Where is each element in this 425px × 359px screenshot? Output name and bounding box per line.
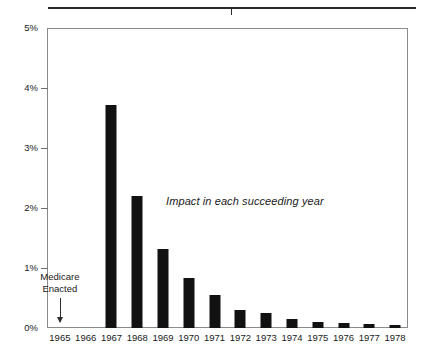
bar-chart-figure: 0%1%2%3%4%5% 196519661967196819691970197… xyxy=(0,0,425,359)
bar-1974 xyxy=(286,319,297,328)
bar-1975 xyxy=(312,322,323,328)
x-axis-tick-label: 1966 xyxy=(75,332,96,343)
annotation-medicare-enacted: Medicare Enacted xyxy=(29,271,91,294)
bar-1969 xyxy=(158,249,169,328)
bar-1971 xyxy=(209,295,220,328)
bar-1967 xyxy=(106,105,117,328)
x-axis-tick-label: 1973 xyxy=(256,332,277,343)
annotation-medicare-line-2: Enacted xyxy=(29,283,91,295)
medicare-down-arrow-icon xyxy=(60,298,61,322)
y-axis-tick-label: 2% xyxy=(24,203,38,213)
x-axis-tick-label: 1967 xyxy=(101,332,122,343)
annotation-medicare-line-1: Medicare xyxy=(29,271,91,283)
bars-layer xyxy=(47,28,408,328)
x-axis-tick-label: 1977 xyxy=(359,332,380,343)
x-axis-tick-label: 1969 xyxy=(152,332,173,343)
x-axis-tick-label: 1974 xyxy=(281,332,302,343)
bar-1978 xyxy=(390,325,401,328)
bar-1972 xyxy=(235,310,246,328)
bar-1970 xyxy=(183,278,194,328)
y-axis-tick-label: 0% xyxy=(24,323,38,333)
bar-1968 xyxy=(132,196,143,328)
y-axis: 0%1%2%3%4%5% xyxy=(0,0,47,359)
bar-1976 xyxy=(338,323,349,328)
x-axis-tick-label: 1968 xyxy=(127,332,148,343)
x-axis-tick-label: 1965 xyxy=(49,332,70,343)
x-axis-tick-label: 1976 xyxy=(333,332,354,343)
arrow-head-icon xyxy=(57,317,63,323)
x-axis-tick-label: 1971 xyxy=(204,332,225,343)
x-axis-tick-label: 1972 xyxy=(230,332,251,343)
x-axis-tick-label: 1978 xyxy=(385,332,406,343)
x-axis-tick-label: 1975 xyxy=(307,332,328,343)
bar-1977 xyxy=(364,324,375,328)
annotation-impact-in-each-succeeding-year: Impact in each succeeding year xyxy=(166,195,324,207)
x-axis: 1965196619671968196919701971197219731974… xyxy=(47,332,408,350)
y-axis-tick-label: 3% xyxy=(24,143,38,153)
bar-1973 xyxy=(261,313,272,328)
y-axis-tick-label: 5% xyxy=(24,23,38,33)
x-axis-tick-label: 1970 xyxy=(178,332,199,343)
y-axis-tick-label: 4% xyxy=(24,83,38,93)
